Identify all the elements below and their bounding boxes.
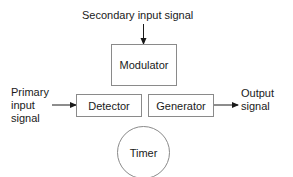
node-detector-label: Detector — [88, 100, 130, 112]
node-modulator-label: Modulator — [120, 59, 169, 71]
node-generator[interactable]: Generator — [148, 94, 214, 117]
output-signal-line2: signal — [241, 100, 270, 113]
node-timer-label: Timer — [130, 147, 158, 159]
node-generator-label: Generator — [156, 100, 206, 112]
node-detector[interactable]: Detector — [76, 94, 142, 117]
secondary-input-signal-label: Secondary input signal — [82, 9, 193, 22]
primary-input-signal-line1: Primary — [11, 86, 49, 99]
node-modulator[interactable]: Modulator — [111, 44, 177, 86]
diagram-canvas: Secondary input signal Modulator Detecto… — [0, 0, 293, 177]
primary-input-signal-line2: input — [11, 99, 35, 112]
primary-input-signal-line3: signal — [11, 112, 40, 125]
output-signal-line1: Output — [241, 87, 274, 100]
node-timer[interactable]: Timer — [117, 126, 170, 177]
